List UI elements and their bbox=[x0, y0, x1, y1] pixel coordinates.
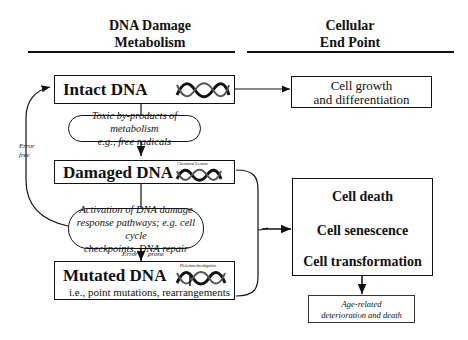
aging-line2: deterioration and death bbox=[309, 310, 414, 321]
damaged-dna-label: Damaged DNA bbox=[63, 163, 173, 183]
error-free-line1: Error bbox=[19, 142, 35, 151]
toxic-line1: Toxic by-products of metabolism bbox=[69, 109, 200, 135]
error-free-line2: free bbox=[19, 151, 35, 160]
header-left-line1: DNA Damage bbox=[70, 17, 230, 34]
activation-line2: response pathways; e.g. cell cycle bbox=[69, 216, 203, 242]
mutated-dna-subtitle: i.e., point mutations, rearrangements bbox=[69, 286, 230, 298]
chemical-lesion-caption: Chemical Lesion bbox=[177, 161, 208, 166]
header-dna-damage-metabolism: DNA Damage Metabolism bbox=[70, 17, 230, 51]
error-free-label: Error free bbox=[19, 142, 35, 160]
aging-line1: Age-related bbox=[309, 299, 414, 310]
cell-growth-line2: and differentiation bbox=[292, 93, 431, 107]
endpoint-cell-transformation: Cell transformation bbox=[293, 254, 432, 270]
error-prone-label-right: prone bbox=[148, 250, 164, 258]
dna-helix-icon bbox=[175, 168, 223, 182]
error-prone-label-left: Error bbox=[122, 250, 138, 258]
endpoint-cell-death: Cell death bbox=[293, 189, 432, 205]
deletion-breakpoint-caption: Deletion breakpoint bbox=[180, 263, 216, 268]
node-activation-dna-damage-response: Activation of DNA damage response pathwa… bbox=[68, 208, 204, 249]
header-left-line2: Metabolism bbox=[70, 34, 230, 51]
header-right-line2: End Point bbox=[290, 34, 410, 51]
node-intact-dna: Intact DNA bbox=[54, 75, 235, 104]
node-age-related-deterioration: Age-related deterioration and death bbox=[308, 295, 415, 323]
header-right-line1: Cellular bbox=[290, 17, 410, 34]
intact-dna-label: Intact DNA bbox=[63, 80, 148, 100]
node-mutated-dna: Mutated DNA Deletion breakpoint i.e., po… bbox=[54, 261, 235, 300]
mutated-dna-label: Mutated DNA bbox=[63, 266, 166, 286]
node-cell-endpoints: Cell death Cell senescence Cell transfor… bbox=[292, 178, 433, 276]
node-toxic-byproducts: Toxic by-products of metabolism e.g., fr… bbox=[68, 115, 201, 142]
header-cellular-end-point: Cellular End Point bbox=[290, 17, 410, 51]
dna-helix-icon bbox=[175, 81, 231, 99]
endpoint-cell-senescence: Cell senescence bbox=[293, 223, 432, 239]
dna-helix-icon bbox=[175, 270, 227, 286]
header-right-rule bbox=[247, 51, 454, 53]
node-damaged-dna: Damaged DNA Chemical Lesion bbox=[54, 160, 235, 184]
cell-growth-line1: Cell growth bbox=[292, 79, 431, 93]
header-left-rule bbox=[28, 51, 235, 53]
toxic-line2: e.g., free radicals bbox=[69, 135, 200, 148]
node-cell-growth: Cell growth and differentiation bbox=[291, 76, 432, 108]
activation-line1: Activation of DNA damage bbox=[69, 203, 203, 216]
